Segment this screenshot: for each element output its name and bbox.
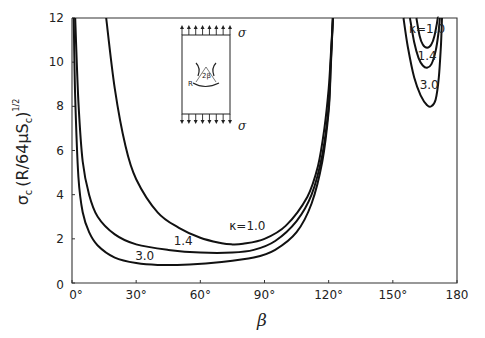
x-tick-label: 180 [446, 288, 469, 302]
x-tick-label: 30° [126, 288, 147, 302]
y-tick-label: 10 [49, 55, 64, 69]
arrow-head [187, 120, 191, 124]
x-tick-label: 150° [378, 288, 407, 302]
inset-plate-diagram: σ σ 2β R [180, 25, 247, 133]
y-axis-label: σc(R/64μSc)1/2 [12, 99, 34, 206]
arrow-head [201, 120, 205, 124]
curve-label: 3.0 [135, 249, 154, 263]
y-tick-label: 12 [49, 11, 64, 25]
y-tick-label: 0 [56, 278, 64, 292]
tension-arrows-bottom [180, 114, 232, 124]
arrow-head [228, 120, 232, 124]
arrow-head [221, 120, 225, 124]
arrow-head [214, 25, 218, 29]
curve-label: 1.4 [174, 234, 193, 248]
arrow-head [180, 25, 184, 29]
x-axis-label: β [256, 310, 267, 330]
curve-label: κ=1.0 [229, 219, 265, 233]
y-tick-label: 4 [56, 188, 64, 202]
y-tick-label: 8 [56, 99, 64, 113]
arrow-head [207, 120, 211, 124]
arrow-head [201, 25, 205, 29]
radius-label: R [188, 80, 193, 88]
curve-left-1.0 [106, 18, 333, 244]
arrow-head [194, 25, 198, 29]
arrow-head [187, 25, 191, 29]
x-tick-label: 60° [190, 288, 211, 302]
arrow-head [228, 25, 232, 29]
y-tick-label: 6 [56, 144, 64, 158]
arrow-head [194, 120, 198, 124]
crack-tip-left [196, 63, 199, 76]
crack-tip-right [213, 63, 216, 76]
curve-label: κ=1.0 [409, 22, 445, 36]
curve-left-3.0 [74, 18, 333, 265]
chart: 0°30°60°90°120°150°180024681012 κ=1.01.4… [0, 0, 485, 338]
arrow-head [214, 120, 218, 124]
arrow-head [207, 25, 211, 29]
sigma-bottom-label: σ [238, 119, 247, 133]
x-tick-label: 0° [69, 288, 83, 302]
y-tick-label: 2 [56, 232, 64, 246]
x-tick-label: 120° [314, 288, 343, 302]
curve-label: 1.4 [418, 49, 437, 63]
tension-arrows-top [180, 25, 232, 35]
x-tick-label: 90° [254, 288, 275, 302]
arrow-head [180, 120, 184, 124]
axis-ticks: 0°30°60°90°120°150°180024681012 [49, 11, 469, 302]
arc-crack [193, 83, 219, 87]
curve-label: 3.0 [420, 78, 439, 92]
sigma-top-label: σ [238, 26, 247, 40]
angle-label: 2β [202, 72, 211, 80]
arrow-head [221, 25, 225, 29]
